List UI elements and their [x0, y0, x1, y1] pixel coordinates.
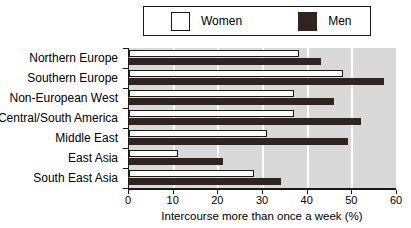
x-axis-tick-label: 60: [381, 194, 411, 207]
bar-women: [129, 170, 254, 177]
y-axis-tick-label: Southern Europe: [27, 68, 118, 88]
bar-men: [129, 58, 321, 65]
y-axis-tick: [123, 108, 128, 109]
bar-group: [129, 48, 397, 68]
y-axis-tick: [123, 68, 128, 69]
bar-women: [129, 50, 299, 57]
bar-men: [129, 138, 348, 145]
bar-men: [129, 78, 384, 85]
y-axis-tick-label: Central/South America: [0, 108, 118, 128]
y-axis-tick: [123, 88, 128, 89]
bar-men: [129, 158, 223, 165]
legend-label-men: Men: [328, 15, 351, 27]
y-axis-tick: [123, 168, 128, 169]
y-axis-tick-label: Middle East: [55, 128, 118, 148]
chart-legend: Women Men: [143, 6, 371, 36]
y-axis-tick-label: South East Asia: [33, 168, 118, 188]
x-axis-title: Intercourse more than once a week (%): [128, 210, 396, 222]
x-axis-tick-label: 10: [158, 194, 188, 207]
y-axis-labels: Northern EuropeSouthern EuropeNon-Europe…: [0, 48, 122, 188]
bar-chart: Northern EuropeSouthern EuropeNon-Europe…: [0, 44, 411, 228]
y-axis-tick-label: East Asia: [68, 148, 118, 168]
y-axis-tick-label: Non-European West: [9, 88, 118, 108]
bar-group: [129, 108, 397, 128]
legend-entry-women: Women: [171, 7, 242, 35]
y-axis-tick: [123, 128, 128, 129]
bar-men: [129, 178, 281, 185]
legend-label-women: Women: [201, 15, 242, 27]
plot-area: [128, 48, 397, 188]
men-swatch-icon: [298, 12, 317, 31]
bar-group: [129, 168, 397, 188]
x-axis-tick-label: 40: [292, 194, 322, 207]
y-axis-tick: [123, 48, 128, 49]
bar-women: [129, 70, 343, 77]
x-axis-tick-label: 50: [336, 194, 366, 207]
x-axis-tick-label: 30: [247, 194, 277, 207]
bar-group: [129, 88, 397, 108]
x-axis-tick-label: 20: [202, 194, 232, 207]
women-swatch-icon: [171, 12, 190, 31]
y-axis-tick-label: Northern Europe: [29, 48, 118, 68]
legend-entry-men: Men: [298, 7, 351, 35]
bar-women: [129, 90, 294, 97]
bar-women: [129, 110, 294, 117]
bar-women: [129, 150, 178, 157]
bar-women: [129, 130, 267, 137]
bar-men: [129, 98, 334, 105]
bar-group: [129, 128, 397, 148]
bar-group: [129, 148, 397, 168]
bar-group: [129, 68, 397, 88]
x-axis-tick-label: 0: [113, 194, 143, 207]
y-axis-tick: [123, 188, 128, 189]
bar-men: [129, 118, 361, 125]
y-axis-tick: [123, 148, 128, 149]
